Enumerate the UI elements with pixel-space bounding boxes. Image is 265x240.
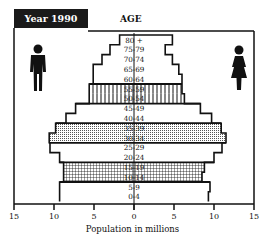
age-group-label: 80 + bbox=[110, 36, 158, 45]
male-figure-icon bbox=[27, 44, 49, 92]
age-group-label: 15-19 bbox=[110, 163, 158, 172]
age-group-label: 25-29 bbox=[110, 143, 158, 152]
age-group-label: 65-69 bbox=[110, 65, 158, 74]
x-tick-label: 5 bbox=[84, 212, 104, 221]
age-group-label: 40-44 bbox=[110, 114, 158, 123]
x-tick-label: 10 bbox=[204, 212, 224, 221]
x-tick-label: 0 bbox=[124, 212, 144, 221]
age-group-label: 10-14 bbox=[110, 173, 158, 182]
age-group-label: 60-64 bbox=[110, 75, 158, 84]
age-group-label: 30-34 bbox=[110, 134, 158, 143]
age-group-label: 35-39 bbox=[110, 124, 158, 133]
x-tick-label: 10 bbox=[44, 212, 64, 221]
age-group-label: 55-59 bbox=[110, 85, 158, 94]
age-group-label: 20-24 bbox=[110, 153, 158, 162]
age-group-label: 0-4 bbox=[110, 192, 158, 201]
x-tick-label: 5 bbox=[164, 212, 184, 221]
x-tick-label: 15 bbox=[244, 212, 264, 221]
age-group-label: 5-9 bbox=[110, 183, 158, 192]
female-figure-icon bbox=[228, 45, 250, 91]
age-group-label: 45-49 bbox=[110, 104, 158, 113]
age-group-label: 75-79 bbox=[110, 45, 158, 54]
age-group-label: 50-54 bbox=[110, 94, 158, 103]
age-group-label: 70-74 bbox=[110, 55, 158, 64]
x-axis-label: Population in millions bbox=[0, 224, 265, 234]
x-tick-label: 15 bbox=[4, 212, 24, 221]
